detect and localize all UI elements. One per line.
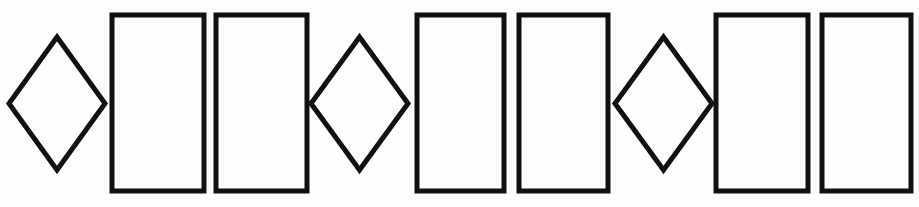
rectangle-shape (822, 15, 911, 191)
rectangle-shape (519, 15, 608, 191)
shape-layer (9, 15, 911, 191)
shape-sequence-figure: Shape sequence A horizontal row of nine … (0, 0, 919, 207)
diamond-shape (9, 37, 105, 170)
diamond-shape (615, 37, 712, 170)
rectangle-shape (417, 15, 504, 191)
diamond-shape (311, 37, 408, 170)
rectangle-shape (112, 15, 204, 191)
rectangle-shape (716, 15, 808, 191)
shape-sequence-canvas: Shape sequence A horizontal row of nine … (0, 0, 919, 207)
rectangle-shape (216, 15, 307, 191)
